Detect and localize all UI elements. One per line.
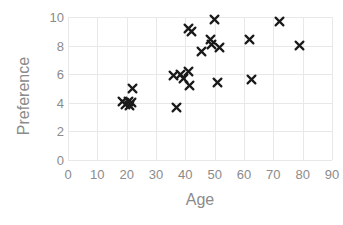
gridline-horizontal	[68, 46, 332, 47]
data-point-marker	[120, 99, 131, 110]
data-point-marker	[244, 34, 255, 45]
x-axis-tick-label: 80	[295, 168, 309, 181]
y-axis-tick-label: 2	[38, 125, 64, 138]
gridline-vertical	[156, 17, 157, 160]
data-point-marker	[196, 46, 207, 57]
y-axis-tick-label: 6	[38, 68, 64, 81]
y-axis-tick-label: 0	[38, 154, 64, 167]
data-point-marker	[123, 96, 134, 107]
x-axis-tick-label: 0	[64, 168, 71, 181]
x-axis-tick-label: 50	[207, 168, 221, 181]
x-axis-tick-label: 30	[149, 168, 163, 181]
data-point-marker	[212, 77, 223, 88]
scatter-chart: 0246810 0102030405060708090 Age Preferen…	[0, 0, 343, 225]
y-axis-title: Preference	[16, 26, 32, 166]
gridline-vertical	[244, 17, 245, 160]
gridline-horizontal	[68, 160, 332, 161]
x-axis-tick-label: 10	[90, 168, 104, 181]
x-axis-tick-label: 20	[119, 168, 133, 181]
gridline-vertical	[303, 17, 304, 160]
gridline-vertical	[68, 17, 69, 160]
gridline-vertical	[332, 17, 333, 160]
x-axis-tick-label: 90	[325, 168, 339, 181]
data-point-marker	[246, 74, 257, 85]
y-axis-tick-labels: 0246810	[36, 0, 64, 225]
y-axis-tick-label: 10	[38, 11, 64, 24]
x-axis-title: Age	[68, 192, 332, 208]
data-point-marker	[124, 100, 135, 111]
data-point-marker	[127, 83, 138, 94]
data-point-marker	[186, 26, 197, 37]
x-axis-tick-label: 70	[266, 168, 280, 181]
gridline-vertical	[273, 17, 274, 160]
x-axis-tick-label: 60	[237, 168, 251, 181]
gridline-vertical	[215, 17, 216, 160]
x-axis-tick-labels: 0102030405060708090	[0, 168, 343, 186]
data-point-marker	[168, 70, 179, 81]
gridline-horizontal	[68, 17, 332, 18]
y-axis-tick-label: 4	[38, 96, 64, 109]
plot-area	[68, 17, 332, 160]
y-axis-tick-label: 8	[38, 39, 64, 52]
gridline-vertical	[97, 17, 98, 160]
x-axis-tick-label: 40	[178, 168, 192, 181]
gridline-horizontal	[68, 103, 332, 104]
gridline-vertical	[127, 17, 128, 160]
gridline-horizontal	[68, 74, 332, 75]
gridline-horizontal	[68, 131, 332, 132]
gridline-vertical	[185, 17, 186, 160]
